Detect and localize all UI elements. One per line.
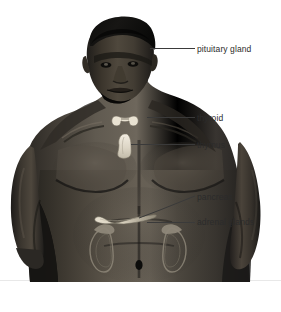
thymus-gland: [118, 134, 131, 158]
label-pituitary-gland: pituitary gland: [197, 44, 251, 54]
label-pancreas: pancreas: [197, 192, 233, 202]
label-adrenal-glands: adrenal glands: [197, 217, 254, 227]
label-thyroid: thyroid: [197, 113, 223, 123]
endocrine-diagram-canvas: pituitary gland thyroid thymus pancreas …: [0, 0, 281, 312]
label-thymus: thymus: [197, 140, 225, 150]
